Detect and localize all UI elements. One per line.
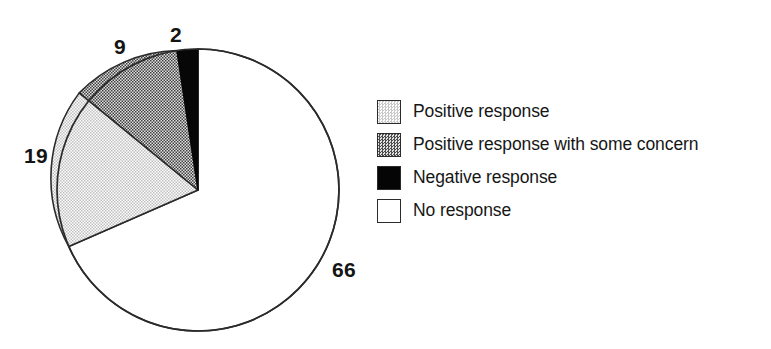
pie-chart-area: 2 9 19 66 bbox=[0, 0, 400, 349]
legend-swatch-negative-response-icon bbox=[377, 166, 401, 190]
legend-label-negative-response: Negative response bbox=[413, 168, 557, 187]
legend-swatch-positive-response-icon bbox=[377, 100, 401, 124]
pie-value-label-positive-response: 19 bbox=[24, 145, 48, 166]
legend-item-no-response: No response bbox=[377, 194, 767, 227]
pie-value-label-positive-response-concern: 9 bbox=[114, 36, 126, 57]
legend-item-positive-response: Positive response bbox=[377, 95, 767, 128]
pie-chart-figure: 2 9 19 66 Positive response Positive res… bbox=[0, 0, 771, 349]
pie-value-label-no-response: 66 bbox=[332, 259, 356, 280]
pie-chart-svg bbox=[0, 0, 400, 349]
legend-label-positive-response: Positive response bbox=[413, 102, 549, 121]
legend-swatch-no-response-icon bbox=[377, 199, 401, 223]
legend-label-positive-response-concern: Positive response with some concern bbox=[413, 135, 698, 154]
legend-item-negative-response: Negative response bbox=[377, 161, 767, 194]
pie-value-label-negative-response: 2 bbox=[170, 24, 182, 45]
legend-swatch-positive-response-concern-icon bbox=[377, 133, 401, 157]
legend-item-positive-response-concern: Positive response with some concern bbox=[377, 128, 767, 161]
legend-label-no-response: No response bbox=[413, 201, 511, 220]
legend: Positive response Positive response with… bbox=[377, 95, 767, 227]
